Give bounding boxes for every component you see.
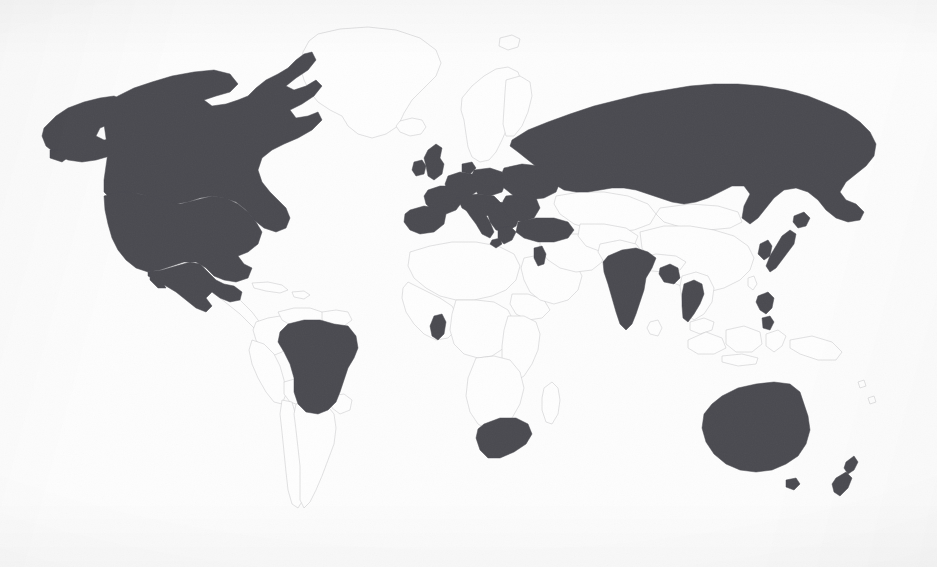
region-svalbard <box>499 35 520 50</box>
region-malaysia <box>690 318 714 334</box>
region-iceland <box>396 118 426 136</box>
region-turkey-highlighted <box>516 218 574 242</box>
region-new-zealand-highlighted <box>832 456 858 496</box>
region-united-kingdom-highlighted <box>424 144 444 180</box>
region-sumatra <box>688 332 726 354</box>
world-map-figure <box>0 0 937 567</box>
region-finland <box>503 76 532 136</box>
region-spain-portugal-highlighted <box>404 206 446 234</box>
region-poland-czech-highlighted <box>471 168 506 196</box>
region-borneo <box>726 326 762 352</box>
region-australia-highlighted <box>702 382 810 472</box>
region-hispaniola <box>292 291 310 299</box>
region-fiji <box>868 396 876 404</box>
region-argentina <box>294 402 336 508</box>
region-ireland-highlighted <box>412 160 426 176</box>
region-india-highlighted <box>603 248 656 330</box>
world-map-canvas <box>0 0 937 567</box>
region-java <box>722 354 758 366</box>
region-pacific-islands <box>858 380 866 388</box>
region-madagascar <box>542 382 560 424</box>
region-cuba <box>252 282 288 293</box>
region-philippines-highlighted <box>756 292 774 330</box>
region-south-africa-highlighted <box>476 418 532 458</box>
region-taiwan <box>748 276 757 290</box>
region-tasmania-highlighted <box>786 478 800 490</box>
region-sulawesi <box>766 330 786 352</box>
region-sri-lanka <box>647 320 662 336</box>
region-japan-highlighted <box>766 212 810 272</box>
region-new-guinea <box>790 336 842 360</box>
